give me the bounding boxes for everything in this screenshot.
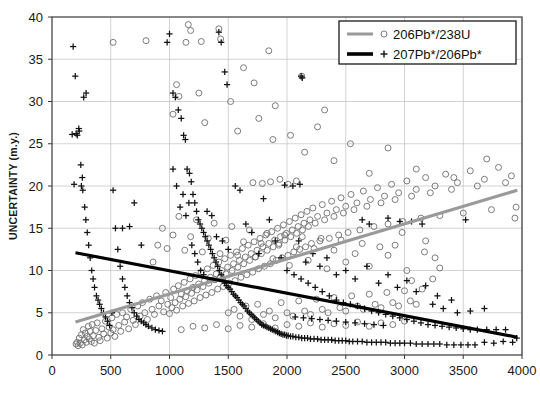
y-axis-title-text: UNCERTAINTY (m.y.) (7, 132, 19, 240)
x-tick-label: 4000 (508, 363, 537, 378)
y-tick-label: 25 (29, 136, 43, 151)
legend-label: 206Pb*/238U (393, 27, 470, 42)
y-tick-label: 5 (36, 305, 43, 320)
y-tick-label: 15 (29, 221, 43, 236)
x-tick-labels: 05001000150020002500300035004000 (48, 363, 536, 378)
x-tick-label: 0 (48, 363, 55, 378)
x-tick-label: 2500 (331, 363, 360, 378)
x-tick-label: 1000 (155, 363, 184, 378)
x-tick-label: 500 (100, 363, 122, 378)
plot-svg: 05001000150020002500300035004000 0510152… (0, 0, 540, 395)
y-tick-label: 20 (29, 179, 43, 194)
x-tick-label: 3500 (449, 363, 478, 378)
y-tick-label: 30 (29, 94, 43, 109)
y-axis-title: UNCERTAINTY (m.y.) (7, 132, 19, 240)
x-tick-label: 2000 (273, 363, 302, 378)
y-tick-label: 10 (29, 263, 43, 278)
y-tick-label: 0 (36, 348, 43, 363)
y-tick-label: 40 (29, 10, 43, 25)
y-tick-label: 35 (29, 52, 43, 67)
x-tick-label: 3000 (390, 363, 419, 378)
legend-label: 207Pb*/206Pb* (393, 47, 482, 62)
x-tick-label: 1500 (214, 363, 243, 378)
legend: 206Pb*/238U207Pb*/206Pb* (339, 21, 516, 64)
scatter-chart: 05001000150020002500300035004000 0510152… (0, 0, 540, 395)
